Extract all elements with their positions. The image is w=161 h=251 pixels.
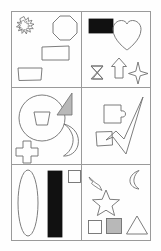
shape-grid-figure: [0, 0, 161, 251]
figure-canvas: [0, 0, 161, 251]
filled-bar-shape: [48, 171, 62, 237]
canvas-background: [0, 0, 161, 251]
filled-rectangle-shape: [89, 19, 113, 33]
shaded-square-shape: [107, 219, 122, 234]
